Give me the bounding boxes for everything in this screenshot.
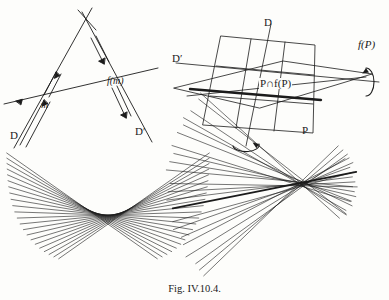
- panel-bottom-right-graphic: [0, 0, 389, 300]
- pencil-line: [170, 183, 357, 186]
- figure-caption: Fig. IV.10.4.: [0, 283, 389, 294]
- pencil-line: [173, 172, 353, 221]
- pencil-line: [167, 177, 353, 200]
- pencil-line: [172, 146, 350, 202]
- pencil-line: [183, 125, 352, 206]
- pencil-line: [199, 99, 347, 214]
- figure-page: m f(m) D D′: [0, 0, 389, 300]
- pencil-line: [186, 159, 345, 257]
